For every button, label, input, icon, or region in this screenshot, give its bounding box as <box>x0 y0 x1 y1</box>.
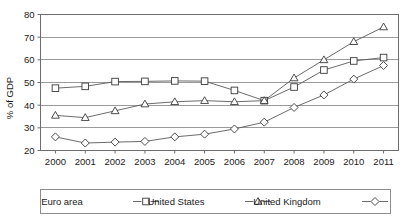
x-tick-label: 2007 <box>254 156 275 167</box>
data-point-square <box>201 78 208 85</box>
data-point-square <box>112 78 119 85</box>
y-tick-label: 50 <box>24 77 35 88</box>
data-point-square <box>171 78 178 85</box>
x-tick-label: 2000 <box>45 156 66 167</box>
data-point-square <box>291 84 298 91</box>
data-point-square <box>321 67 328 74</box>
x-tick-label: 2010 <box>343 156 364 167</box>
y-axis-label: % of GDP <box>4 77 15 119</box>
y-tick-label: 40 <box>24 100 35 111</box>
chart-figure: % of GDP 20304050607080 2000200120022003… <box>0 0 412 222</box>
data-point-square <box>231 87 238 94</box>
data-point-square <box>52 85 59 92</box>
x-tick-label: 2003 <box>134 156 155 167</box>
y-axis-label-text: % of GDP <box>4 77 15 119</box>
legend-label: United Kingdom <box>253 196 321 207</box>
data-point-square <box>142 78 149 85</box>
y-tick-label: 80 <box>24 9 35 20</box>
chart-background <box>0 0 412 222</box>
legend-label: Euro area <box>41 196 83 207</box>
x-tick-label: 2005 <box>194 156 215 167</box>
data-point-square <box>82 83 89 90</box>
x-tick-label: 2009 <box>313 156 334 167</box>
data-point-square <box>380 54 387 61</box>
x-tick-label: 2002 <box>105 156 126 167</box>
y-tick-label: 20 <box>24 145 35 156</box>
line-chart: % of GDP 20304050607080 2000200120022003… <box>0 0 412 222</box>
x-tick-label: 2008 <box>284 156 305 167</box>
x-tick-label: 2011 <box>373 156 393 167</box>
y-tick-label: 60 <box>24 54 35 65</box>
legend-label: United States <box>147 196 204 207</box>
data-point-square <box>350 58 357 65</box>
x-tick-label: 2004 <box>164 156 185 167</box>
y-tick-label: 70 <box>24 32 35 43</box>
y-tick-label: 30 <box>24 122 35 133</box>
x-tick-label: 2001 <box>75 156 96 167</box>
x-tick-label: 2006 <box>224 156 245 167</box>
